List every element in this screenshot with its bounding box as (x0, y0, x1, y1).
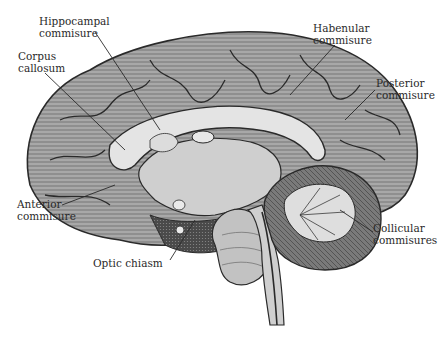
label-habenular-commisure: Habenular commisure (313, 22, 372, 46)
label-posterior-commisure: Posterior commisure (376, 77, 435, 101)
label-line: callosum (18, 62, 65, 74)
label-line: commisure (313, 34, 372, 46)
label-line: Collicular (373, 222, 437, 234)
interthalamic-adhesion (192, 131, 214, 143)
label-optic-chiasm: Optic chiasm (93, 257, 163, 269)
label-line: Anterior (17, 198, 76, 210)
brain-illustration (0, 0, 446, 337)
label-anterior-commisure: Anterior commisure (17, 198, 76, 222)
label-line: commisure (17, 210, 76, 222)
label-line: commisure (39, 27, 110, 39)
optic-chiasm-structure (176, 226, 184, 234)
label-collicular-commisures: Collicular commisures (373, 222, 437, 246)
label-line: commisure (376, 89, 435, 101)
label-line: Habenular (313, 22, 372, 34)
label-line: commisures (373, 234, 437, 246)
label-hippocampal-commisure: Hippocampal commisure (39, 15, 110, 39)
brain-diagram: Hippocampal commisure Corpus callosum Ha… (0, 0, 446, 337)
mammillary-body (173, 200, 185, 210)
label-line: Corpus (18, 50, 65, 62)
label-line: Hippocampal (39, 15, 110, 27)
label-line: Posterior (376, 77, 435, 89)
label-corpus-callosum: Corpus callosum (18, 50, 65, 74)
label-line: Optic chiasm (93, 257, 163, 269)
